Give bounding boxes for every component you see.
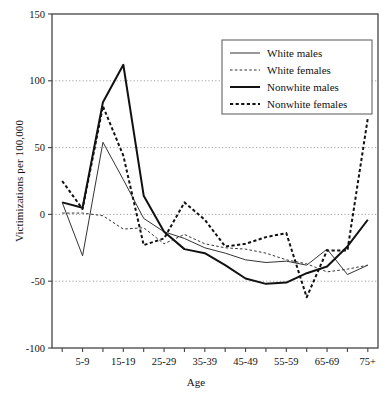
series-line-0 — [62, 142, 368, 274]
chart-figure: -100-500501001505-915-1925-2935-3945-495… — [0, 0, 392, 398]
legend-label-0: White males — [267, 47, 322, 59]
legend-label-2: Nonwhite males — [267, 81, 339, 93]
y-tick-label: -100 — [26, 343, 45, 354]
x-tick-label: 35-39 — [193, 356, 218, 367]
x-tick-label: 15-19 — [111, 356, 136, 367]
x-tick-label: 55-59 — [274, 356, 299, 367]
y-tick-label: -50 — [31, 276, 45, 287]
x-tick-label: 25-29 — [152, 356, 177, 367]
x-tick-label: 65-69 — [315, 356, 340, 367]
y-axis-title: Victimizations per 100,000 — [13, 71, 25, 291]
y-tick-label: 50 — [35, 142, 46, 153]
x-tick-label: 5-9 — [76, 356, 90, 367]
line-chart-svg: -100-500501001505-915-1925-2935-3945-495… — [0, 0, 392, 398]
legend-label-1: White females — [267, 64, 331, 76]
x-tick-label: 45-49 — [233, 356, 258, 367]
x-tick-label: 75+ — [360, 356, 377, 367]
y-tick-label: 100 — [29, 75, 45, 86]
x-axis-title: Age — [0, 376, 392, 388]
y-tick-label: 150 — [29, 9, 45, 20]
series-line-1 — [62, 213, 368, 272]
y-tick-label: 0 — [40, 209, 45, 220]
legend-label-3: Nonwhite females — [267, 98, 347, 110]
